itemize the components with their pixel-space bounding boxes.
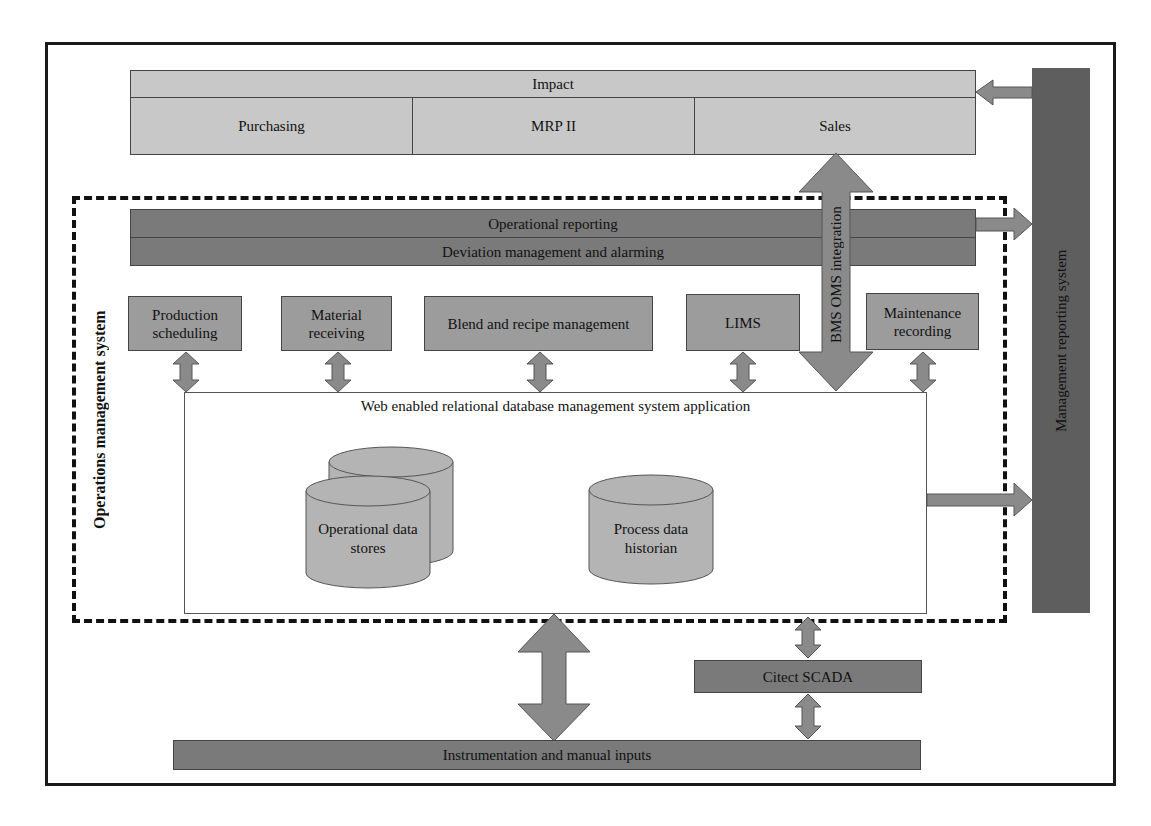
bms-integration-label: BMS OMS integration xyxy=(822,200,850,350)
arrow-database-to-mgmt xyxy=(927,483,1032,516)
process-data-historian-label: Process data historian xyxy=(596,520,706,558)
connector-arrows xyxy=(0,0,1151,826)
arrow-scada-instrumentation xyxy=(795,694,821,739)
instrumentation-bar: Instrumentation and manual inputs xyxy=(173,740,921,770)
arrow-lims-db xyxy=(730,352,756,392)
arrow-production-db xyxy=(173,352,199,392)
arrow-blend-db xyxy=(527,352,553,392)
arrow-maintenance-db xyxy=(910,352,936,392)
arrow-database-scada xyxy=(795,617,821,658)
arrow-material-db xyxy=(325,352,351,392)
arrow-database-instrumentation xyxy=(518,614,590,741)
operational-data-stores-label: Operational data stores xyxy=(306,520,430,558)
arrow-opreporting-to-mgmt xyxy=(976,208,1032,240)
arrow-reporting-to-impact xyxy=(976,80,1032,105)
citect-scada-box: Citect SCADA xyxy=(694,660,922,693)
